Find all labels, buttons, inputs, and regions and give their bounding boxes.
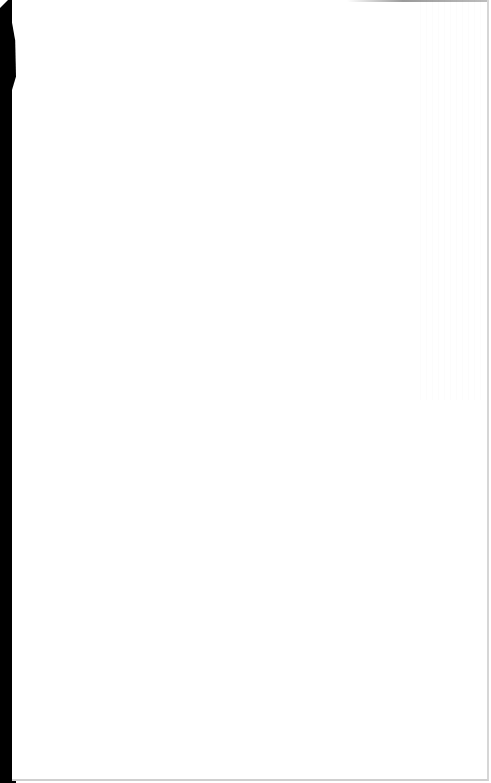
blank-paper-sheet: [12, 0, 489, 781]
paper-texture: [415, 0, 485, 400]
scanned-page-scene: [0, 0, 491, 783]
